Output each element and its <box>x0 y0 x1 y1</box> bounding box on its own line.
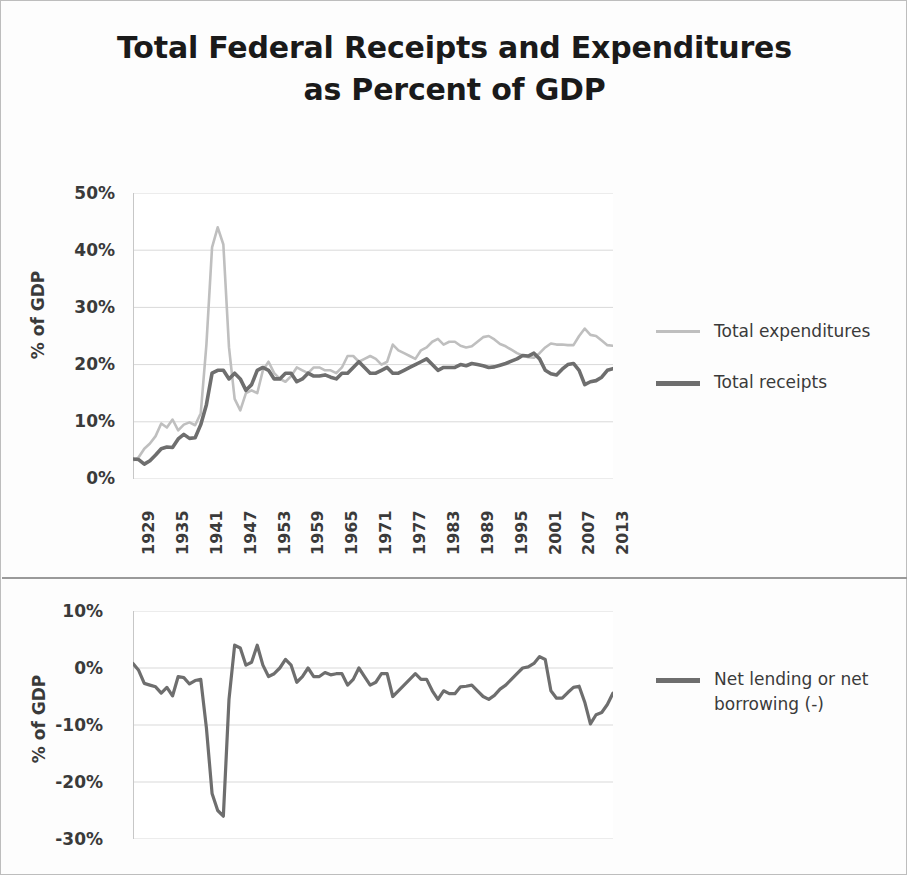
legend-item-total-expenditures: Total expenditures <box>656 319 870 344</box>
chart-page: Total Federal Receipts and Expenditures … <box>0 0 907 875</box>
title-line-2: as Percent of GDP <box>1 69 907 111</box>
y-tick-zero: 0% <box>74 658 103 678</box>
y-tick-20: 20% <box>74 354 115 374</box>
line-swatch-dark-icon <box>656 678 700 683</box>
top-chart-plot-area <box>133 193 613 479</box>
y-tick-40: 40% <box>74 240 115 260</box>
legend-label-total-expenditures: Total expenditures <box>714 319 870 344</box>
y-tick-50: 50% <box>74 183 115 203</box>
top-chart-y-axis-title: % of GDP <box>28 260 48 370</box>
page-title: Total Federal Receipts and Expenditures … <box>1 27 907 111</box>
bottom-chart-legend: Net lending or net borrowing (-) <box>656 667 904 743</box>
x-tick-1989: 1989 <box>478 510 497 555</box>
x-tick-1947: 1947 <box>241 510 260 555</box>
title-line-1: Total Federal Receipts and Expenditures <box>1 27 907 69</box>
bottom-chart-plot-area <box>133 611 613 839</box>
y-tick-neg20: -20% <box>55 772 103 792</box>
line-swatch-dark-icon <box>656 381 700 386</box>
x-tick-1977: 1977 <box>410 510 429 555</box>
legend-label-total-receipts: Total receipts <box>714 370 827 395</box>
x-tick-1941: 1941 <box>207 510 226 555</box>
x-tick-2001: 2001 <box>546 510 565 555</box>
x-tick-2013: 2013 <box>613 510 632 555</box>
x-tick-1935: 1935 <box>173 510 192 555</box>
line-swatch-light-icon <box>656 330 700 333</box>
bottom-chart-panel: % of GDP 10% 0% -10% -20% -30% Net lendi… <box>1 579 907 875</box>
legend-item-total-receipts: Total receipts <box>656 370 870 395</box>
y-tick-neg10: -10% <box>55 715 103 735</box>
top-plot-background <box>133 193 613 479</box>
y-tick-10: 10% <box>74 411 115 431</box>
x-tick-1983: 1983 <box>444 510 463 555</box>
y-tick-neg30: -30% <box>55 829 103 849</box>
legend-label-net-lending: Net lending or net borrowing (-) <box>714 667 904 717</box>
x-tick-1965: 1965 <box>342 510 361 555</box>
y-tick-30: 30% <box>74 297 115 317</box>
x-tick-1995: 1995 <box>512 510 531 555</box>
y-tick-0: 0% <box>86 468 115 488</box>
top-chart-legend: Total expenditures Total receipts <box>656 319 870 421</box>
x-tick-1959: 1959 <box>308 510 327 555</box>
legend-item-net-lending: Net lending or net borrowing (-) <box>656 667 904 717</box>
y-tick-pos10: 10% <box>62 601 103 621</box>
top-chart-panel: % of GDP 50% 40% 30% 20% 10% 0% 19291935… <box>1 161 907 577</box>
x-tick-1971: 1971 <box>376 510 395 555</box>
x-tick-2007: 2007 <box>579 510 598 555</box>
x-tick-1929: 1929 <box>139 510 158 555</box>
bottom-chart-y-axis-title: % of GDP <box>29 659 49 779</box>
x-tick-1953: 1953 <box>275 510 294 555</box>
